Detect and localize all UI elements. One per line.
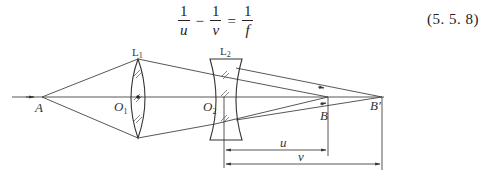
label-l2: L2: [220, 45, 231, 59]
ray-a-top: [42, 59, 138, 97]
ray-l2-top: [236, 68, 382, 97]
optics-diagram: A L1 L2 O1 O2 B B′ u v: [0, 0, 482, 179]
ray-l1-bottom: [138, 124, 215, 138]
label-b-prime: B′: [370, 98, 381, 113]
label-a: A: [34, 100, 43, 115]
ray-a-bottom: [42, 97, 138, 138]
label-u: u: [280, 135, 287, 150]
label-o1: O1: [114, 99, 127, 116]
label-b: B: [320, 108, 328, 123]
label-v: v: [298, 149, 304, 164]
lens-l2: [210, 59, 242, 140]
ray-l1-top: [138, 59, 215, 75]
o1-center-dot: [136, 95, 140, 99]
ray-l2-bottom: [236, 97, 382, 120]
label-o2: O2: [203, 99, 216, 116]
label-l1: L1: [132, 46, 143, 60]
